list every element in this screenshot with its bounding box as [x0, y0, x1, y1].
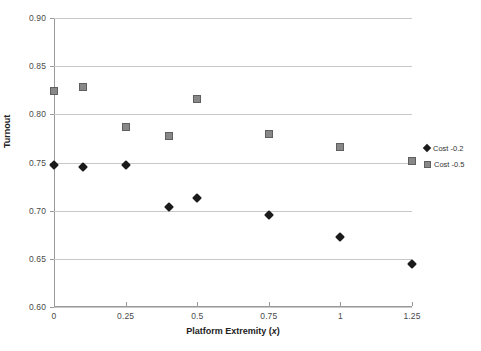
scatter-chart: 0.600.650.700.750.800.850.90 00.250.50.7…: [0, 0, 481, 351]
x-axis-tick-label: 0: [52, 311, 57, 321]
y-axis-tick-label: 0.70: [14, 206, 46, 216]
x-axis-tick-label: 0.25: [117, 311, 134, 321]
x-axis-tick-label: 1.25: [404, 311, 421, 321]
x-axis-title-text: Platform Extremity (: [186, 326, 272, 336]
x-axis-tick-label: 0.5: [191, 311, 203, 321]
x-axis-tick-mark: [412, 302, 413, 306]
y-axis-tick-label: 0.85: [14, 61, 46, 71]
y-axis-tick-label: 0.60: [14, 302, 46, 312]
plot-area: [54, 18, 412, 307]
x-axis-tick-label: 0.75: [260, 311, 277, 321]
legend-item: Cost -0.2: [424, 140, 480, 156]
legend-item-label: Cost -0.5: [434, 160, 464, 169]
legend-diamond-marker-icon: [423, 144, 431, 152]
y-axis-title: Turnout: [2, 115, 12, 148]
legend-square-marker-icon: [424, 161, 431, 168]
x-axis-title: Platform Extremity (x): [54, 326, 412, 336]
x-axis-title-close: ): [277, 326, 280, 336]
y-axis-tick-mark: [50, 307, 54, 308]
x-axis-tick-label: 1: [338, 311, 343, 321]
y-axis-tick-label: 0.75: [14, 158, 46, 168]
gridline: [54, 307, 412, 308]
legend-item-label: Cost -0.2: [433, 144, 463, 153]
y-axis-tick-label: 0.65: [14, 254, 46, 264]
chart-legend: Cost -0.2Cost -0.5: [424, 140, 480, 172]
legend-item: Cost -0.5: [424, 156, 480, 172]
y-axis-tick-label: 0.90: [14, 13, 46, 23]
y-axis-tick-label: 0.80: [14, 109, 46, 119]
